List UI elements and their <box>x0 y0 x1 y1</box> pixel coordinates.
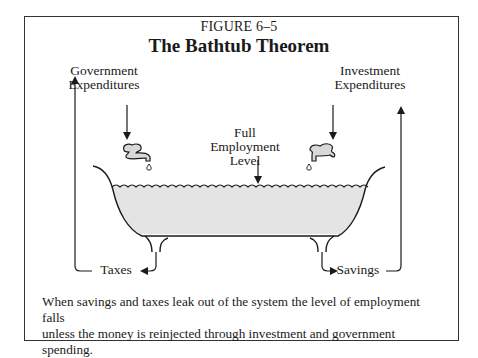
left-faucet-icon <box>124 144 150 161</box>
savings-leak-arrow <box>322 252 336 271</box>
taxes-leak-arrow <box>142 252 156 271</box>
savings-recycle-arrow <box>386 108 401 271</box>
taxes-recycle-arrow <box>75 78 92 271</box>
water-fill <box>112 186 366 234</box>
right-faucet-icon <box>310 144 335 161</box>
left-water-drop-icon <box>147 164 152 170</box>
right-water-drop-icon <box>307 164 312 170</box>
